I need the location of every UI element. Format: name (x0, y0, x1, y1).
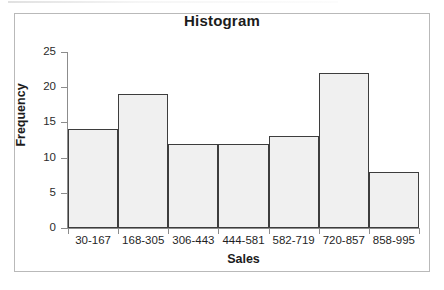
x-axis-title: Sales (68, 252, 419, 266)
histogram-bar (118, 94, 168, 228)
y-tick-label: 15 (16, 115, 56, 127)
x-tick-label: 30-167 (68, 234, 118, 246)
y-tick-label: 10 (16, 151, 56, 163)
y-tick-mark (61, 52, 67, 53)
y-tick-label: 20 (16, 80, 56, 92)
y-tick-label: 5 (16, 186, 56, 198)
histogram-chart: Histogram Frequency 0510152025 30-167168… (0, 0, 444, 290)
y-tick-mark (61, 122, 67, 123)
histogram-bar (218, 144, 268, 228)
bar-series (68, 52, 419, 228)
x-tick-label: 168-305 (118, 234, 168, 246)
chart-title: Histogram (0, 12, 444, 29)
x-axis-line (67, 228, 420, 229)
histogram-bar (369, 172, 419, 228)
x-tick-label: 444-581 (218, 234, 268, 246)
histogram-bar (319, 73, 369, 228)
y-tick-label: 0 (16, 221, 56, 233)
x-tick-label: 858-995 (369, 234, 419, 246)
y-tick-mark (61, 87, 67, 88)
x-tick-label: 582-719 (269, 234, 319, 246)
histogram-bar (68, 129, 118, 228)
x-tick-label: 306-443 (168, 234, 218, 246)
x-tick-mark (419, 229, 420, 234)
y-tick-label: 25 (16, 45, 56, 57)
y-tick-mark (61, 193, 67, 194)
y-tick-mark (61, 158, 67, 159)
histogram-bar (269, 136, 319, 228)
histogram-bar (168, 144, 218, 228)
x-tick-label: 720-857 (319, 234, 369, 246)
